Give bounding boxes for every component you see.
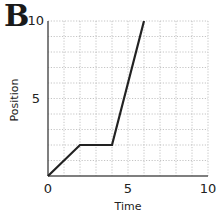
x-tick-0: 0 bbox=[44, 181, 52, 196]
x-axis-label: Time bbox=[114, 200, 142, 213]
x-tick-10: 10 bbox=[200, 181, 217, 196]
y-tick-5: 5 bbox=[32, 91, 40, 106]
x-tick-5: 5 bbox=[124, 181, 132, 196]
y-tick-10: 10 bbox=[27, 13, 44, 28]
position-time-chart: 0 5 10 5 10 Time Position bbox=[0, 0, 220, 215]
y-axis-label: Position bbox=[8, 79, 21, 122]
